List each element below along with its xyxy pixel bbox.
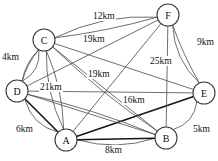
node-label-b: B xyxy=(163,133,170,144)
edge-weight-label: 25km xyxy=(149,56,173,66)
edge-weight-label: 9km xyxy=(196,37,215,47)
edge-weight-label: 16km xyxy=(122,95,146,105)
edge-c-d xyxy=(22,50,39,82)
edge-weight-label: 19km xyxy=(82,34,106,44)
node-b[interactable]: B xyxy=(155,127,177,149)
edge-f-e xyxy=(173,25,200,83)
node-e[interactable]: E xyxy=(193,82,215,104)
edge-weight-label: 12km xyxy=(92,11,116,21)
node-f[interactable]: F xyxy=(157,4,179,26)
edge-weight-label: 8km xyxy=(104,145,123,155)
node-label-d: D xyxy=(13,86,20,97)
edge-c-d xyxy=(22,50,39,82)
node-d[interactable]: D xyxy=(6,80,28,102)
node-label-c: C xyxy=(41,35,48,46)
graph-diagram-canvas: ABCDEF 12km19km9km25km4km19km21km16km6km… xyxy=(0,0,218,161)
node-label-a: A xyxy=(62,135,70,146)
node-c[interactable]: C xyxy=(33,29,55,51)
edge-weight-label: 4km xyxy=(1,52,20,62)
edge-b-f xyxy=(166,26,168,127)
edge-a-b xyxy=(77,138,155,140)
edge-e-f xyxy=(173,25,200,83)
edge-weight-label: 5km xyxy=(192,124,211,134)
node-label-f: F xyxy=(165,10,171,21)
node-a[interactable]: A xyxy=(55,129,77,151)
edge-weight-label: 6km xyxy=(15,124,34,134)
edge-d-c xyxy=(22,50,39,82)
edge-weight-label: 19km xyxy=(87,69,111,79)
edge-c-e xyxy=(54,43,193,89)
edge-weight-label: 21km xyxy=(39,82,63,92)
node-label-e: E xyxy=(201,88,207,99)
graph-svg: ABCDEF xyxy=(0,0,218,161)
